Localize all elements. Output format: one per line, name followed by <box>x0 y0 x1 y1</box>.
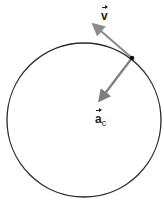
object-point <box>130 56 135 61</box>
acceleration-symbol: a <box>95 113 102 125</box>
velocity-arrow <box>94 25 132 58</box>
acceleration-label: ac <box>95 113 106 128</box>
acceleration-subscript: c <box>102 118 107 128</box>
acceleration-arrow <box>100 58 132 100</box>
velocity-symbol: v <box>101 10 108 22</box>
velocity-label: v <box>101 10 108 22</box>
circular-path <box>7 43 161 197</box>
circular-motion-diagram <box>0 0 164 207</box>
